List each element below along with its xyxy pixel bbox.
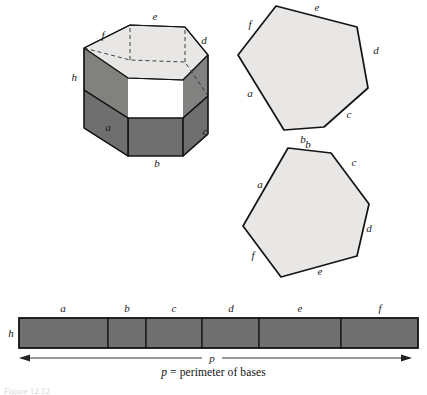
- hexagon-bottom-label-b: b: [305, 138, 311, 150]
- prism-label-h: h: [72, 71, 78, 83]
- strip-label-d: d: [228, 302, 234, 314]
- figure-page: e f d h a b c f e d c b a b c d e f a: [0, 0, 427, 395]
- prism-label-b: b: [154, 157, 160, 169]
- strip-segment-f: [341, 318, 418, 348]
- strip-label-h: h: [8, 327, 14, 339]
- hexagon-top-label-c: c: [347, 108, 352, 120]
- hexagon-top-label-e: e: [315, 1, 320, 13]
- prism-group: e f d h a b c: [72, 10, 209, 169]
- prism-label-a: a: [105, 121, 111, 133]
- strip-segment-b: [108, 318, 146, 348]
- strip-segment-d: [202, 318, 259, 348]
- strip-label-e: e: [298, 302, 303, 314]
- strip-segment-e: [259, 318, 341, 348]
- figure-caption: p = perimeter of bases: [0, 366, 427, 378]
- prism-front-face-b: [128, 118, 183, 156]
- hexagon-bottom-label-f: f: [251, 249, 256, 261]
- strip-label-b: b: [124, 302, 130, 314]
- strip-segment-a: [19, 318, 108, 348]
- prism-label-e: e: [153, 10, 158, 22]
- hexagon-bottom-label-a: a: [257, 178, 263, 190]
- hexagon-top-label-f: f: [248, 18, 253, 30]
- strip-label-a: a: [60, 302, 66, 314]
- hexagon-top-label-a: a: [247, 87, 253, 99]
- caption-text: = perimeter of bases: [167, 366, 266, 378]
- hexagon-bottom-shape: [243, 148, 369, 277]
- geometry-figure: e f d h a b c f e d c b a b c d e f a: [0, 0, 427, 395]
- prism-label-c: c: [203, 125, 208, 137]
- hexagon-top-label-d: d: [373, 44, 379, 56]
- hexagon-bottom-label-d: d: [366, 222, 372, 234]
- strip-segment-c: [146, 318, 202, 348]
- strip-label-f: f: [378, 302, 383, 314]
- lateral-strip-group: a b c d e f h p: [8, 302, 418, 364]
- perimeter-arrow: p: [19, 352, 412, 364]
- perimeter-arrowhead-right: [401, 355, 412, 362]
- hexagon-bottom-group: b c d e f a: [243, 138, 372, 277]
- prism-label-d: d: [201, 34, 207, 46]
- strip-label-c: c: [172, 302, 177, 314]
- perimeter-label-p: p: [208, 352, 215, 364]
- hexagon-top-group: f e d c b a: [238, 1, 379, 145]
- hexagon-bottom-label-c: c: [352, 156, 357, 168]
- figure-number-tag: Figure 12.12: [4, 386, 50, 395]
- perimeter-arrowhead-left: [19, 355, 30, 362]
- hexagon-bottom-label-e: e: [318, 265, 323, 277]
